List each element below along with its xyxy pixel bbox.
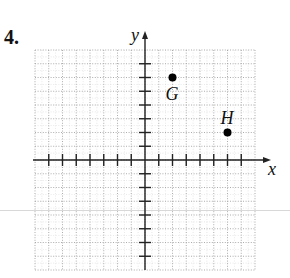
coordinate-plane: xyGH [0,0,290,278]
y-axis-arrow-icon [142,31,148,39]
point-label-h: H [220,108,235,128]
y-axis-label: y [129,25,139,45]
point-g [169,74,177,82]
point-label-g: G [166,84,179,104]
x-axis-label: x [267,159,276,179]
point-h [224,129,232,137]
